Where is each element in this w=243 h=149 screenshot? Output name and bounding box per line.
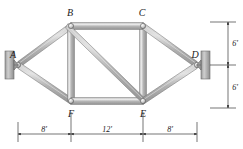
joint-E (140, 98, 145, 103)
member-F-E (71, 98, 143, 105)
truss-members (18, 23, 197, 105)
node-label-D: D (190, 49, 199, 60)
truss-diagram-canvas: A B C D E F 6' 6' (0, 0, 243, 149)
node-label-B: B (67, 7, 73, 18)
member-B-C (71, 23, 143, 30)
member-B-F (68, 26, 75, 101)
member-E-D (143, 62, 197, 105)
node-label-A: A (9, 49, 17, 60)
dim-label-vertical-top: 6' (232, 39, 238, 48)
node-label-C: C (139, 7, 146, 18)
dim-label-span-right: 8' (167, 125, 173, 134)
member-A-B (18, 23, 71, 69)
member-C-D (143, 23, 197, 69)
dim-label-span-middle: 12' (102, 125, 112, 134)
horizontal-dimensions: 8' 12' 8' (18, 112, 197, 142)
joint-B (68, 23, 73, 28)
vertical-dimensions: 6' 6' (210, 22, 238, 108)
truss-figure: A B C D E F 6' 6' (0, 0, 243, 149)
joint-C (140, 23, 145, 28)
node-label-E: E (139, 108, 146, 119)
member-A-F (18, 62, 71, 105)
member-C-E (140, 26, 147, 101)
member-B-E (66, 24, 147, 105)
dim-label-span-left: 8' (41, 125, 47, 134)
joint-F (68, 98, 73, 103)
dim-label-vertical-bottom: 6' (232, 83, 238, 92)
